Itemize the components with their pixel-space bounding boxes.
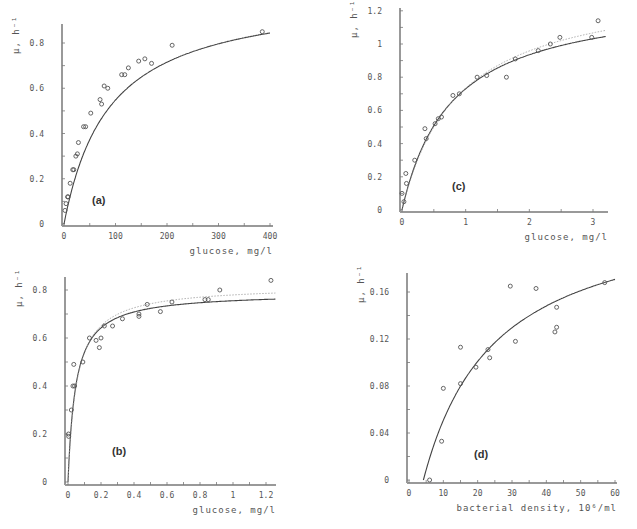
data-point xyxy=(404,181,408,185)
data-point xyxy=(404,171,408,175)
data-point xyxy=(76,141,80,145)
x-tick-label: 0.4 xyxy=(127,491,142,500)
y-tick-label: 0.8 xyxy=(30,39,45,48)
y-axis-title: μ, h⁻¹ xyxy=(356,264,366,303)
data-point xyxy=(120,317,124,321)
fit-curve-dotted xyxy=(402,30,606,210)
figure-caption-cutoff xyxy=(0,519,637,529)
data-point xyxy=(137,59,141,63)
data-point xyxy=(111,324,115,328)
panel-label: (a) xyxy=(92,194,106,206)
panel-b: 00.20.40.60.811.200.20.40.60.8μ, h⁻¹gluc… xyxy=(14,268,276,515)
y-tick-label: 0.6 xyxy=(368,106,383,115)
y-tick-label: 0.04 xyxy=(370,429,389,438)
data-point xyxy=(126,66,130,70)
data-point xyxy=(534,286,538,290)
x-tick-label: 0 xyxy=(407,489,412,498)
data-point xyxy=(413,158,417,162)
y-axis-title: μ, h⁻¹ xyxy=(11,15,21,54)
data-point xyxy=(100,102,104,106)
fit-curve-dotted xyxy=(68,293,275,482)
panel-label: (c) xyxy=(452,180,466,192)
data-point xyxy=(260,30,264,34)
data-point xyxy=(89,111,93,115)
data-point xyxy=(99,336,103,340)
x-tick-label: 30 xyxy=(507,489,517,498)
x-tick-label: 40 xyxy=(542,489,552,498)
x-axis-title: bacterial density, 10⁶/ml xyxy=(457,503,617,513)
y-tick-label: 0.6 xyxy=(33,334,48,343)
y-tick-label: 1 xyxy=(377,40,382,49)
x-axis-title: glucose, mg/l xyxy=(193,505,276,515)
data-point xyxy=(94,338,98,342)
data-point xyxy=(143,57,147,61)
y-tick-label: 0.8 xyxy=(368,73,383,82)
data-point xyxy=(475,75,479,79)
fit-curve xyxy=(423,279,615,480)
panel-d: 010203040506000.040.080.120.16μ, h⁻¹bact… xyxy=(356,264,620,513)
data-point xyxy=(441,386,445,390)
data-point xyxy=(68,181,72,185)
data-point xyxy=(218,288,222,292)
x-tick-label: 10 xyxy=(439,489,449,498)
data-point xyxy=(596,19,600,23)
x-tick-label: 3 xyxy=(591,218,596,227)
data-point xyxy=(269,278,273,282)
x-tick-label: 60 xyxy=(610,489,620,498)
y-axis-title: μ, h⁻¹ xyxy=(349,0,359,38)
data-point xyxy=(558,35,562,39)
y-tick-label: 0 xyxy=(39,220,44,229)
x-axis-title: glucose, mg/l xyxy=(525,232,608,242)
x-tick-label: 0.6 xyxy=(160,491,175,500)
y-tick-label: 0.08 xyxy=(370,382,389,391)
x-tick-label: 1 xyxy=(463,218,468,227)
y-tick-label: 0.4 xyxy=(30,130,45,139)
x-tick-label: 1 xyxy=(231,491,236,500)
y-tick-label: 0 xyxy=(377,206,382,215)
x-tick-label: 200 xyxy=(160,232,175,241)
data-point xyxy=(150,61,154,65)
data-point xyxy=(451,93,455,97)
x-tick-label: 0.8 xyxy=(193,491,208,500)
data-point xyxy=(553,330,557,334)
y-tick-label: 0.6 xyxy=(30,84,45,93)
data-point xyxy=(87,336,91,340)
data-point xyxy=(488,356,492,360)
x-tick-label: 50 xyxy=(576,489,586,498)
x-tick-label: 400 xyxy=(263,232,278,241)
y-tick-label: 0.4 xyxy=(368,140,383,149)
y-tick-label: 0.8 xyxy=(33,286,48,295)
y-tick-label: 0.2 xyxy=(368,173,383,182)
x-tick-label: 0.2 xyxy=(94,491,109,500)
y-tick-label: 0.12 xyxy=(370,335,389,344)
x-tick-label: 1.2 xyxy=(259,491,274,500)
figure: 010020030040000.20.40.60.8μ, h⁻¹glucose,… xyxy=(0,0,637,529)
y-tick-label: 0.4 xyxy=(33,382,48,391)
data-point xyxy=(555,325,559,329)
y-tick-label: 0 xyxy=(42,478,47,487)
data-point xyxy=(459,345,463,349)
x-tick-label: 0 xyxy=(66,491,71,500)
data-point xyxy=(98,98,102,102)
panel-a: 010020030040000.20.40.60.8μ, h⁻¹glucose,… xyxy=(11,15,277,256)
x-axis-title: glucose, mg/l xyxy=(190,246,273,256)
data-point xyxy=(504,75,508,79)
data-point xyxy=(508,284,512,288)
data-point xyxy=(170,300,174,304)
data-point xyxy=(474,365,478,369)
data-point xyxy=(158,310,162,314)
data-point xyxy=(513,339,517,343)
x-tick-label: 2 xyxy=(527,218,532,227)
x-tick-label: 0 xyxy=(400,218,405,227)
y-tick-label: 0 xyxy=(384,476,389,485)
data-point xyxy=(106,86,110,90)
panel-label: (d) xyxy=(474,448,488,460)
x-tick-label: 0 xyxy=(62,232,67,241)
fit-curve xyxy=(402,37,606,211)
x-tick-label: 300 xyxy=(211,232,226,241)
y-axis-title: μ, h⁻¹ xyxy=(14,268,24,307)
data-point xyxy=(97,346,101,350)
data-point xyxy=(555,305,559,309)
data-point xyxy=(423,127,427,131)
panel-c: 012300.20.40.60.811.2μ, h⁻¹glucose, mg/l… xyxy=(349,0,608,242)
